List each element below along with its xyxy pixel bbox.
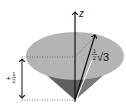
magnitude-numerator: 1 [93, 48, 96, 54]
spin-cone-diagram: z 1 2 √3 + 1 2 [0, 0, 126, 112]
projection-denominator: 2 [13, 78, 16, 84]
projection-sign: + [6, 74, 11, 83]
magnitude-radical: √3 [97, 51, 109, 63]
z-axis-label: z [78, 8, 84, 19]
projection-numerator: 1 [13, 71, 16, 77]
magnitude-denominator: 2 [93, 55, 96, 61]
